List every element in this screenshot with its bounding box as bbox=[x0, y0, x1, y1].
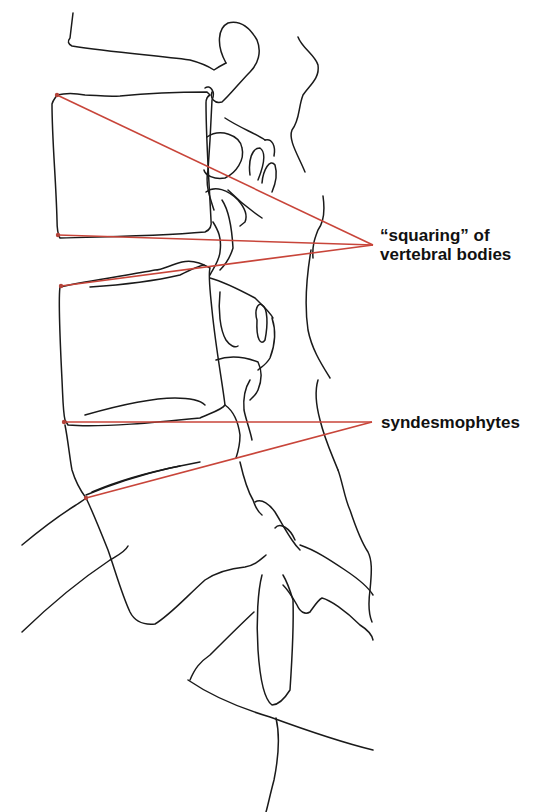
leader-lines-syndesmophytes bbox=[62, 420, 372, 500]
endplate-line-2-lower bbox=[85, 398, 205, 415]
endplate-line-3 bbox=[86, 462, 200, 495]
upper-vertebra-outline bbox=[68, 13, 226, 70]
upper-posterior-element bbox=[211, 22, 259, 102]
label-squaring-line2: vertebral bodies bbox=[380, 245, 511, 264]
foramen-oval bbox=[256, 304, 267, 342]
lower-posterior-contour bbox=[338, 470, 372, 622]
spinous-tip bbox=[283, 585, 373, 640]
label-syndesmophytes: syndesmophytes bbox=[381, 413, 520, 432]
posterior-contour-2 bbox=[306, 250, 330, 378]
lower-process-line bbox=[300, 545, 373, 595]
vertebral-body-3 bbox=[86, 498, 266, 624]
upper-inferior-process-2 bbox=[228, 190, 262, 218]
sacrum-upper bbox=[190, 612, 254, 680]
leader-lines-squaring bbox=[55, 93, 373, 288]
facet-joint-oval-3 bbox=[262, 163, 276, 192]
spinous-contour-upper bbox=[291, 37, 318, 172]
posterior-wall-3 bbox=[240, 462, 262, 515]
facet-line-1 bbox=[225, 118, 265, 140]
inferior-articular-2 bbox=[225, 405, 240, 458]
posterior-contour-mid bbox=[313, 196, 324, 258]
pedicle-upper-2 bbox=[220, 200, 233, 270]
posterior-contour-3 bbox=[316, 380, 338, 470]
sacral-line-2 bbox=[22, 546, 128, 632]
facet-line-2 bbox=[265, 140, 275, 156]
label-squaring-line1: “squaring” of bbox=[380, 226, 511, 245]
vertebral-body-1 bbox=[52, 92, 211, 238]
pedicle-upper bbox=[210, 222, 221, 275]
coccyx-line bbox=[266, 718, 278, 812]
facet-joint-oval-2 bbox=[249, 148, 263, 180]
endplate-line-2 bbox=[90, 265, 204, 287]
label-squaring-of-vertebral-bodies: “squaring” of vertebral bodies bbox=[380, 226, 511, 264]
articular-process-2b bbox=[244, 380, 252, 440]
sacral-promontory-line bbox=[22, 498, 86, 545]
spinous-process-lower bbox=[257, 575, 293, 705]
posterior-lamina-2 bbox=[219, 292, 238, 347]
sacrum-lower bbox=[188, 680, 373, 750]
facet-process-3b bbox=[275, 526, 295, 540]
vertebral-body-3-front bbox=[65, 425, 86, 498]
label-syndesmophytes-text: syndesmophytes bbox=[381, 413, 520, 432]
spine-diagram bbox=[0, 0, 546, 812]
